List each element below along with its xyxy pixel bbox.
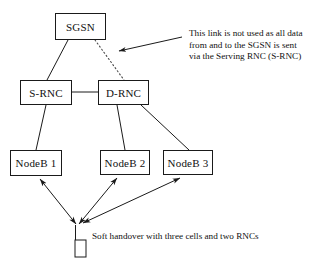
node-sgsn-label: SGSN (66, 21, 95, 33)
diagram-caption: Soft handover with three cells and two R… (92, 231, 259, 243)
node-sgsn[interactable]: SGSN (55, 13, 106, 40)
node-srnc-label: S-RNC (29, 87, 62, 99)
node-nodeb2-label: NodeB 2 (105, 157, 146, 169)
node-srnc[interactable]: S-RNC (20, 80, 72, 105)
annotation-line-2: from and to the SGSN is sent (189, 40, 303, 52)
radio-link-ue-nodeb3 (83, 178, 180, 223)
node-drnc-label: D-RNC (106, 87, 141, 99)
link-drnc-nodeb3 (141, 105, 189, 150)
annotation-text: This link is not used as all data from a… (189, 28, 303, 63)
annotation-leader-line (119, 37, 182, 51)
node-drnc[interactable]: D-RNC (98, 80, 149, 105)
node-nodeb1[interactable]: NodeB 1 (10, 150, 62, 176)
link-sgsn-drnc-dotted (95, 40, 124, 80)
link-sgsn-srnc (47, 40, 68, 80)
mobile-phone-icon (75, 225, 86, 257)
radio-link-ue-nodeb1 (40, 179, 76, 224)
node-nodeb3[interactable]: NodeB 3 (163, 150, 213, 175)
node-nodeb1-label: NodeB 1 (16, 157, 57, 169)
network-diagram: SGSN S-RNC D-RNC NodeB 1 NodeB 2 NodeB 3… (0, 0, 310, 267)
radio-link-ue-nodeb2 (79, 178, 117, 224)
link-srnc-nodeb1 (36, 105, 46, 150)
node-nodeb2[interactable]: NodeB 2 (100, 150, 150, 175)
annotation-line-1: This link is not used as all data (189, 28, 303, 40)
annotation-line-3: via the Serving RNC (S-RNC) (189, 51, 303, 63)
link-drnc-nodeb2 (117, 105, 125, 150)
node-nodeb3-label: NodeB 3 (168, 157, 209, 169)
